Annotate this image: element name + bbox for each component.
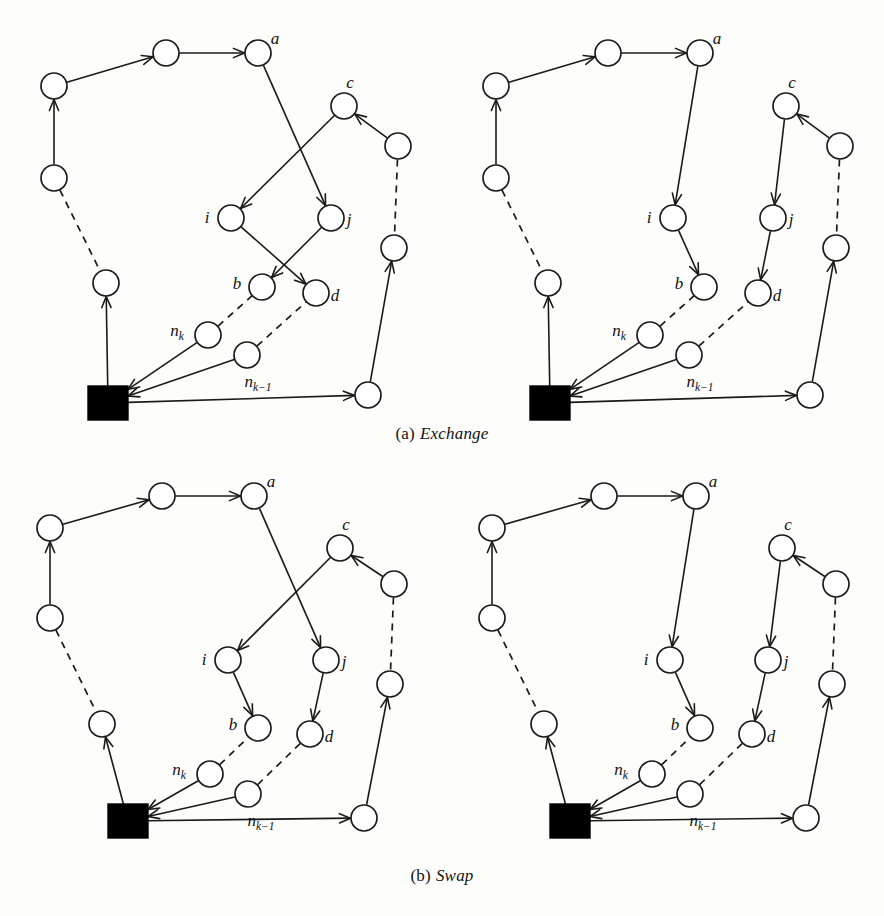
depot-node [550,804,590,838]
node-label-d: d [767,727,776,746]
node-a [687,40,713,66]
edge-c-to-j [775,119,785,204]
node-unlabeled [531,711,557,737]
node-unlabeled [93,270,119,296]
node-unlabeled [37,515,63,541]
node-unlabeled [89,711,115,737]
edge-r1-to-r2 [395,159,398,234]
node-label-a: a [267,472,276,491]
panel-exchange-before: acijbdnknk−1 [0,8,442,408]
node-label-nk: nk [172,760,187,781]
node-c [327,535,353,561]
node-d [297,721,323,747]
edge-r1-to-c [351,555,383,576]
subfigure-caption-a: (a)Exchange [0,424,884,444]
node-j [760,205,786,231]
figure-row-swap: acijbdnknk−1 acijbdnknk−1 [0,466,884,866]
figure-root: acijbdnknk−1 acijbdnknk−1 (a)Exchange ac… [0,0,884,916]
edge-nk-to-b [218,296,252,326]
node-d [303,280,329,306]
arrowhead-icon [351,555,363,565]
node-a [245,40,271,66]
node-unlabeled [793,805,819,831]
node-unlabeled [595,40,621,66]
node-label-a: a [709,472,718,491]
edge-r1-to-r2 [833,597,836,670]
edge-nk-to-b [662,737,691,764]
node-unlabeled [41,165,67,191]
node-b [687,715,713,741]
node-label-nk: nk [170,321,185,342]
node-unlabeled [37,605,63,631]
node-nk1 [677,781,703,807]
node-b [249,274,275,300]
edge-depot-to-l2 [106,737,124,804]
node-nk1 [235,781,261,807]
route-graph: acijbdnknk−1 [442,8,884,408]
node-nk1 [676,342,702,368]
node-unlabeled [351,805,377,831]
node-nk [197,761,223,787]
node-nk [195,322,221,348]
edge-r3-to-r2 [809,697,830,805]
edge-nk-to-b [660,296,694,326]
arrowhead-icon [590,800,602,809]
node-unlabeled [153,40,179,66]
edge-a-to-i [672,509,694,646]
node-b [691,274,717,300]
subfigure-caption-b: (b)Swap [0,866,884,886]
edge-r3-to-r2 [367,697,388,805]
node-a [683,483,709,509]
node-unlabeled [483,73,509,99]
node-label-c: c [342,515,350,534]
edge-l1-to-l2 [498,630,538,712]
node-label-nk1: nk−1 [244,372,271,393]
node-unlabeled [823,235,849,261]
node-label-d: d [325,727,334,746]
figure-row-exchange: acijbdnknk−1 acijbdnknk−1 [0,8,884,408]
node-nk [639,761,665,787]
edge-c-to-j [770,561,781,646]
edge-r1-to-c [355,114,387,138]
edge-nk1-to-d [257,302,306,346]
edge-depot-to-r3 [128,395,355,402]
figure-footer-text [0,903,884,916]
arrowhead-icon [148,800,160,809]
edge-a-to-j [259,508,320,647]
edge-r1-to-c [797,114,829,138]
edge-nk-to-depot [148,781,198,810]
edge-i-to-b [675,672,694,715]
node-label-i: i [644,650,649,669]
node-unlabeled [483,165,509,191]
node-d [745,280,771,306]
edge-i-to-b [233,672,252,715]
depot-node [88,386,128,420]
node-a [241,483,267,509]
edge-nk-to-b [220,737,249,764]
node-unlabeled [377,671,403,697]
node-label-i: i [647,208,652,227]
node-label-d: d [331,286,340,305]
node-i [218,205,244,231]
panel-swap-after: acijbdnknk−1 [442,466,884,866]
node-layer [37,483,407,838]
node-label-j: j [345,210,352,229]
node-b [245,715,271,741]
node-label-a: a [271,29,280,48]
edge-j-to-b [272,228,322,278]
node-unlabeled [591,483,617,509]
edge-l1-to-l2 [502,190,542,271]
edge-l1-to-l2 [60,190,100,271]
route-graph: acijbdnknk−1 [0,466,442,866]
depot-node [108,804,148,838]
node-unlabeled [385,133,411,159]
caption-b-index: (b) [410,866,430,885]
node-label-nk: nk [614,760,629,781]
node-j [318,205,344,231]
edge-nk1-to-depot [590,797,677,817]
node-nk [637,322,663,348]
node-unlabeled [41,73,67,99]
node-label-j: j [782,652,789,671]
edge-a-to-i [675,66,698,204]
edge-r3-to-r2 [812,261,833,381]
